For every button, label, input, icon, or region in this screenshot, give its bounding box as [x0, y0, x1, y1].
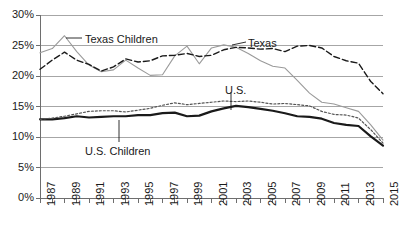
y-axis-tick-label: 0%: [0, 191, 34, 203]
y-axis-tick-label: 30%: [0, 8, 34, 20]
x-axis-tick-label: 1991: [94, 182, 106, 206]
x-axis-tick-label: 2011: [339, 182, 351, 206]
y-axis-tick-label: 25%: [0, 39, 34, 51]
leader-texas: [232, 42, 246, 45]
x-axis-tick-label: 1995: [143, 182, 155, 206]
x-axis-tick-label: 2015: [388, 182, 400, 206]
x-axis-tick-label: 1993: [119, 182, 131, 206]
series-annotation-label: Texas Children: [85, 33, 158, 45]
series-line-texas-children: [40, 36, 383, 140]
series-annotation-label: U.S. Children: [85, 145, 150, 157]
y-axis-tick-label: 5%: [0, 161, 34, 173]
series-annotation-label: Texas: [248, 37, 277, 49]
x-axis-tick-label: 2013: [364, 182, 376, 206]
series-annotation-label: U.S.: [225, 84, 246, 96]
x-axis-tick-label: 2003: [241, 182, 253, 206]
x-axis-tick-label: 2005: [266, 182, 278, 206]
x-axis-tick-label: 1987: [45, 182, 57, 206]
y-axis-tick-label: 20%: [0, 69, 34, 81]
chart-plot-area: [0, 0, 406, 250]
y-axis-tick-label: 10%: [0, 130, 34, 142]
x-axis-tick-label: 2007: [290, 182, 302, 206]
x-axis-tick-label: 2009: [315, 182, 327, 206]
x-axis-tick-label: 1999: [192, 182, 204, 206]
chart-container: 0%5%10%15%20%25%30%198719891991199319951…: [0, 0, 406, 250]
x-axis-tick-label: 2001: [217, 182, 229, 206]
x-axis-tick-label: 1989: [70, 182, 82, 206]
y-axis-tick-label: 15%: [0, 100, 34, 112]
series-line-texas: [40, 46, 383, 94]
x-axis-tick-label: 1997: [168, 182, 180, 206]
